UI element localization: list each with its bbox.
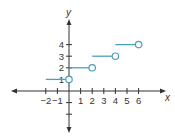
y-tick-label: 2 [59,62,64,73]
y-tick-label: 3 [59,51,64,62]
x-tick-label: 3 [101,95,106,106]
x-axis-label: x [164,92,171,103]
tick-marks: −2−11234561234 [40,39,141,114]
open-endpoint-circle [112,53,118,59]
x-tick-label: 2 [90,95,95,106]
open-endpoint-circle [66,76,72,82]
x-tick-label: 4 [113,95,118,106]
y-axis-label: y [65,7,72,18]
open-endpoint-circle [135,41,141,47]
x-tick-label: −1 [52,95,63,106]
x-tick-label: −2 [40,95,51,106]
open-endpoint-circle [89,65,95,71]
step-function-plot: −2−11234561234 x y [0,0,175,136]
x-tick-label: 1 [78,95,83,106]
y-tick-label: 4 [59,39,64,50]
x-tick-label: 5 [124,95,129,106]
axes [14,22,163,130]
x-tick-label: 6 [136,95,141,106]
